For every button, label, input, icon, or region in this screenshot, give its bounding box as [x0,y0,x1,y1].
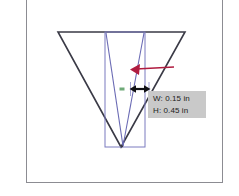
tooltip-height-label: H: 0.45 in [153,105,202,117]
dimension-tooltip: W: 0.15 in H: 0.45 in [148,91,206,118]
screenshot-root: W: 0.15 in H: 0.45 in [0,0,239,196]
tooltip-width-label: W: 0.15 in [153,93,202,105]
